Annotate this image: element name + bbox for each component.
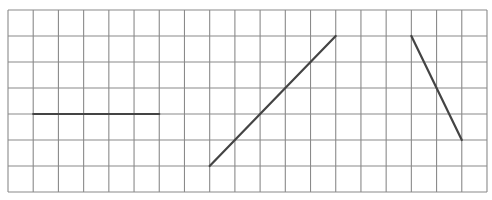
grid-lines <box>8 10 487 192</box>
grid-diagram <box>0 0 492 200</box>
rising-diagonal-segment <box>210 36 336 166</box>
line-segments <box>33 36 462 166</box>
